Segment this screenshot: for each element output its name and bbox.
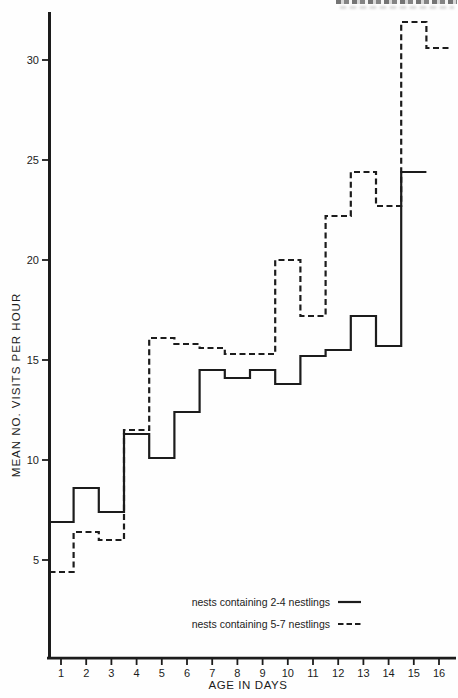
y-tick-label: 15 xyxy=(27,354,39,366)
x-tick-label: 11 xyxy=(307,667,318,679)
y-axis-title: MEAN NO. VISITS PER HOUR xyxy=(10,293,22,477)
scanned-figure-page: 51015202530 MEAN NO. VISITS PER HOUR 123… xyxy=(0,0,458,698)
y-axis: 51015202530 MEAN NO. VISITS PER HOUR xyxy=(10,12,50,659)
x-tick-label: 10 xyxy=(282,667,294,679)
y-tick-label: 20 xyxy=(27,254,39,266)
series-group xyxy=(50,22,451,572)
x-tick-label: 4 xyxy=(134,667,140,679)
x-tick-label: 7 xyxy=(209,667,215,679)
y-tick-label: 5 xyxy=(33,554,39,566)
chart-svg: 51015202530 MEAN NO. VISITS PER HOUR 123… xyxy=(0,0,458,698)
y-tick-label: 10 xyxy=(27,454,39,466)
x-tick-label: 2 xyxy=(83,667,89,679)
y-ticks: 51015202530 xyxy=(27,54,50,566)
x-axis-title: AGE IN DAYS xyxy=(208,679,287,691)
x-tick-label: 14 xyxy=(382,667,394,679)
series-2-4-nestlings-line xyxy=(50,172,427,522)
x-tick-label: 8 xyxy=(234,667,240,679)
x-tick-label: 6 xyxy=(184,667,190,679)
x-tick-label: 12 xyxy=(332,667,344,679)
x-tick-label: 3 xyxy=(108,667,114,679)
x-tick-label: 13 xyxy=(357,667,369,679)
x-tick-label: 5 xyxy=(159,667,165,679)
y-tick-label: 25 xyxy=(27,154,39,166)
series-5-7-nestlings-line xyxy=(50,22,451,572)
y-tick-label: 30 xyxy=(27,54,39,66)
x-axis: 12345678910111213141516 AGE IN DAYS xyxy=(47,658,456,691)
x-tick-label: 15 xyxy=(408,667,420,679)
legend-label-5-7-nestlings: nests containing 5-7 nestlings xyxy=(192,618,330,630)
legend: nests containing 2-4 nestlings nests con… xyxy=(192,596,361,630)
x-ticks: 12345678910111213141516 xyxy=(58,658,445,679)
x-tick-label: 1 xyxy=(58,667,64,679)
x-tick-label: 16 xyxy=(433,667,445,679)
x-tick-label: 9 xyxy=(260,667,266,679)
legend-label-2-4-nestlings: nests containing 2-4 nestlings xyxy=(192,596,330,608)
